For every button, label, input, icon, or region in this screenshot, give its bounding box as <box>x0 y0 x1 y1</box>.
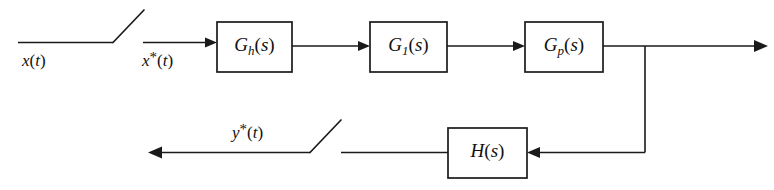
wire-g1-to-gp <box>447 41 525 51</box>
block-gh-label: Gh(s) <box>234 34 274 58</box>
output-arrow-head-icon <box>754 40 768 52</box>
arrow-head-icon <box>205 38 217 48</box>
block-diagram-canvas: x(t) x*(t) Gh(s) G1(s) <box>0 0 774 190</box>
signal-label-xt: x(t) <box>21 51 46 70</box>
block-h[interactable]: H(s) <box>448 128 527 178</box>
block-h-label: H(s) <box>470 140 505 162</box>
block-gh[interactable]: Gh(s) <box>217 22 292 72</box>
block-g1-label: G1(s) <box>388 34 428 58</box>
input-sampler-group <box>18 10 144 43</box>
signal-label-xstar: x*(t) <box>141 49 173 70</box>
block-g1[interactable]: G1(s) <box>370 22 447 72</box>
output-wire-group <box>603 40 768 153</box>
block-diagram-svg: x(t) x*(t) Gh(s) G1(s) <box>0 0 774 190</box>
wire-branch-to-h <box>527 147 645 158</box>
block-gp-label: Gp(s) <box>544 34 584 58</box>
wire-xstar-to-gh <box>143 38 217 48</box>
arrow-head-icon <box>358 41 370 51</box>
input-sampler-arm <box>113 10 144 43</box>
wire-gh-to-g1 <box>292 41 370 51</box>
arrow-head-icon <box>527 147 540 158</box>
block-gp[interactable]: Gp(s) <box>525 22 603 72</box>
output-sampler-arrow-head-icon <box>148 147 162 159</box>
signal-label-ystar: y*(t) <box>230 121 263 142</box>
arrow-head-icon <box>513 41 525 51</box>
output-sampler-arm <box>310 120 341 153</box>
